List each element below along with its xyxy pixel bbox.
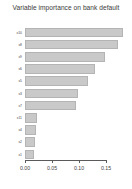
bar-row: x6 [0, 63, 132, 75]
plot-area: x10x8x9x6x5x3x7x11x4x2x1 [0, 24, 132, 158]
bar-row: x5 [0, 75, 132, 87]
chart-title: Variable importance on bank default [0, 4, 132, 12]
bar-row: x1 [0, 149, 132, 161]
bar [25, 150, 34, 160]
bar-category-label: x8 [6, 43, 22, 47]
bar-row: x7 [0, 100, 132, 112]
bar-category-label: x4 [6, 128, 22, 132]
bar-category-label: x5 [6, 79, 22, 83]
bar-category-label: x6 [6, 67, 22, 71]
bar [25, 28, 123, 38]
x-axis-tick-label: 0.10 [69, 165, 89, 171]
x-axis-tick [106, 160, 107, 163]
bar-category-label: x2 [6, 140, 22, 144]
bar [25, 113, 37, 123]
bar [25, 101, 76, 111]
bar-row: x3 [0, 88, 132, 100]
x-axis-tick [52, 160, 53, 163]
x-axis-tick-label: 0.00 [15, 165, 35, 171]
bar [25, 40, 118, 50]
bar-row: x11 [0, 112, 132, 124]
bar-category-label: x1 [6, 153, 22, 157]
bar [25, 89, 78, 99]
bar-row: x10 [0, 27, 132, 39]
x-axis-tick [25, 160, 26, 163]
bar [25, 125, 36, 135]
bar-category-label: x10 [6, 31, 22, 35]
bar-category-label: x7 [6, 104, 22, 108]
x-axis-tick [79, 160, 80, 163]
x-axis-tick-label: 0.05 [42, 165, 62, 171]
bar-category-label: x11 [6, 116, 22, 120]
bar-category-label: x9 [6, 55, 22, 59]
bar-row: x8 [0, 39, 132, 51]
bar-category-label: x3 [6, 92, 22, 96]
x-axis-line [25, 160, 106, 161]
bar [25, 64, 95, 74]
bar [25, 76, 88, 86]
bar-row: x9 [0, 51, 132, 63]
bar-row: x2 [0, 136, 132, 148]
variable-importance-chart: Variable importance on bank default x10x… [0, 0, 132, 189]
bar [25, 52, 105, 62]
bar [25, 137, 35, 147]
x-axis-tick-label: 0.15 [96, 165, 116, 171]
bar-row: x4 [0, 124, 132, 136]
